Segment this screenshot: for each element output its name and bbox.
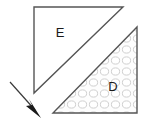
triangle-d-label: D xyxy=(108,79,117,94)
triangle-e-label: E xyxy=(56,25,65,40)
figure-canvas: E D xyxy=(0,0,150,120)
geometry-figure-svg: E D xyxy=(0,0,150,120)
